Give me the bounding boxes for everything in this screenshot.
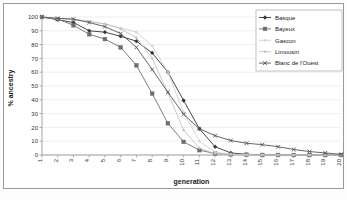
line-chart-svg: 0102030405060708090100 12345678910111213… — [0, 0, 347, 200]
x-tick-label: 2 — [53, 158, 59, 162]
data-point-marker — [150, 92, 154, 96]
legend-label: Gascon — [275, 38, 296, 44]
y-tick-label: 10 — [31, 138, 38, 144]
data-point-marker — [167, 71, 169, 73]
data-point-marker — [308, 154, 310, 156]
y-tick-label: 0 — [35, 152, 39, 158]
data-point-marker — [277, 154, 279, 156]
x-tick-label: 15 — [257, 158, 263, 165]
data-point-marker — [120, 28, 122, 30]
y-tick-label: 30 — [31, 111, 38, 117]
data-point-marker — [182, 99, 186, 103]
data-point-marker — [87, 32, 91, 36]
legend-label: Limousin — [275, 49, 299, 55]
data-point-marker — [264, 39, 266, 41]
x-tick-label: 10 — [179, 158, 185, 165]
data-point-marker — [182, 140, 186, 144]
data-point-marker — [135, 45, 139, 49]
y-tick-label: 80 — [31, 42, 38, 48]
data-point-marker — [119, 45, 123, 49]
y-tick-label: 60 — [31, 69, 38, 75]
x-tick-label: 5 — [100, 158, 106, 162]
x-tick-label: 17 — [289, 158, 295, 165]
data-point-marker — [214, 153, 216, 155]
legend-label: Basque — [275, 15, 296, 21]
x-tick-label: 16 — [273, 158, 279, 165]
data-point-marker — [135, 31, 137, 33]
x-axis-title: generation — [174, 178, 210, 186]
x-tick-label: 19 — [320, 158, 326, 165]
data-point-marker — [72, 23, 76, 27]
data-point-marker — [264, 51, 266, 53]
y-tick-label: 50 — [31, 83, 38, 89]
x-tick-label: 4 — [84, 158, 90, 162]
data-point-marker — [198, 147, 200, 149]
data-point-marker — [261, 154, 263, 156]
x-tick-label: 11 — [194, 158, 200, 165]
data-point-marker — [166, 121, 170, 125]
x-tick-label: 9 — [163, 158, 169, 162]
data-point-marker — [151, 57, 153, 59]
y-axis-title: % ancestry — [7, 69, 15, 106]
data-point-marker — [104, 23, 106, 25]
y-tick-label: 20 — [31, 125, 38, 131]
y-tick-label: 100 — [28, 14, 39, 20]
data-point-marker — [293, 154, 295, 156]
x-tick-label: 7 — [131, 158, 137, 162]
y-tick-label: 90 — [31, 28, 38, 34]
legend-label: Blanc de l'Ouest — [275, 60, 319, 66]
data-point-marker — [135, 37, 137, 39]
y-tick-labels: 0102030405060708090100 — [28, 14, 39, 158]
legend-label: Bayeux — [275, 26, 295, 32]
x-tick-label: 18 — [305, 158, 311, 165]
data-point-marker — [230, 153, 232, 155]
data-point-marker — [87, 29, 91, 33]
data-point-marker — [151, 45, 153, 47]
x-tick-label: 8 — [147, 158, 153, 162]
data-point-marker — [103, 37, 107, 41]
y-tick-label: 40 — [31, 97, 38, 103]
data-point-marker — [135, 63, 139, 67]
x-tick-label: 13 — [226, 158, 232, 165]
y-tick-label: 70 — [31, 56, 38, 62]
chart-legend: BasqueBayeuxGasconLimousinBlanc de l'Oue… — [256, 10, 342, 71]
data-point-marker — [183, 129, 185, 131]
data-point-marker — [263, 27, 267, 31]
x-tick-labels: 1234567891011121314151617181920 — [37, 158, 342, 165]
x-tick-label: 6 — [116, 158, 122, 162]
x-tick-label: 12 — [210, 158, 216, 165]
plot-area: 0102030405060708090100 12345678910111213… — [0, 0, 347, 200]
x-tick-label: 14 — [242, 158, 248, 165]
chart-figure: 0102030405060708090100 12345678910111213… — [0, 0, 347, 200]
data-point-marker — [150, 68, 154, 72]
x-tick-label: 3 — [68, 158, 74, 162]
data-point-marker — [245, 154, 247, 156]
x-tick-label: 1 — [37, 158, 43, 162]
data-point-marker — [198, 140, 200, 142]
x-tick-label: 20 — [336, 158, 342, 165]
